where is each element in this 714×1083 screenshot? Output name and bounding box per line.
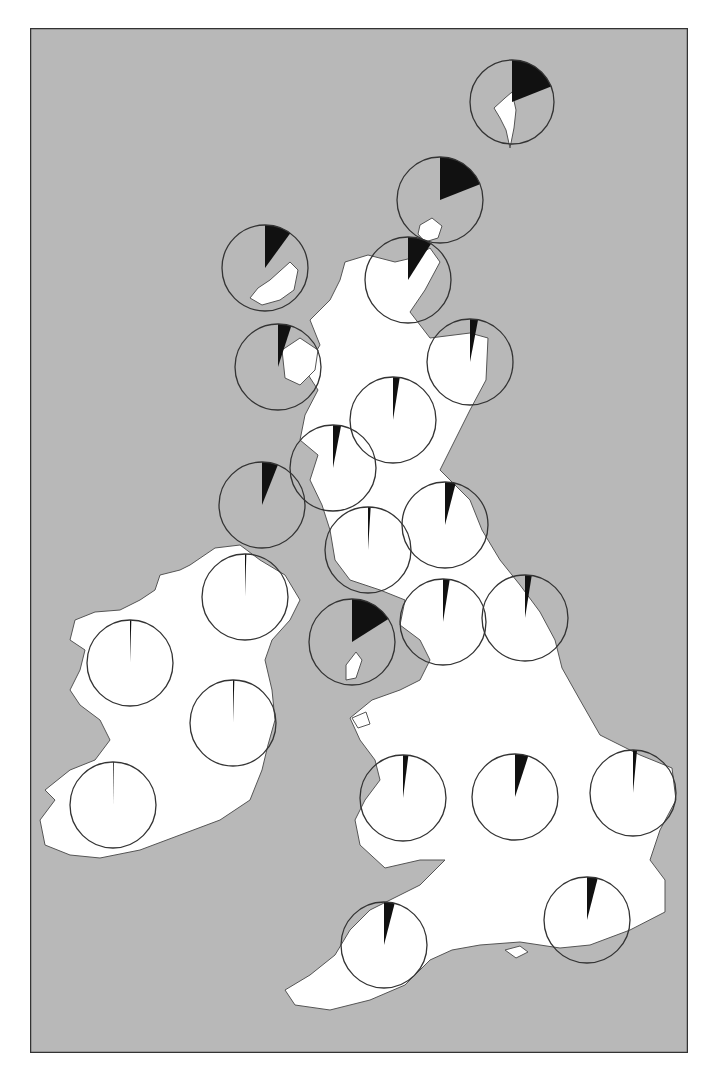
- map-canvas: [30, 28, 688, 1053]
- map-frame: [30, 28, 688, 1053]
